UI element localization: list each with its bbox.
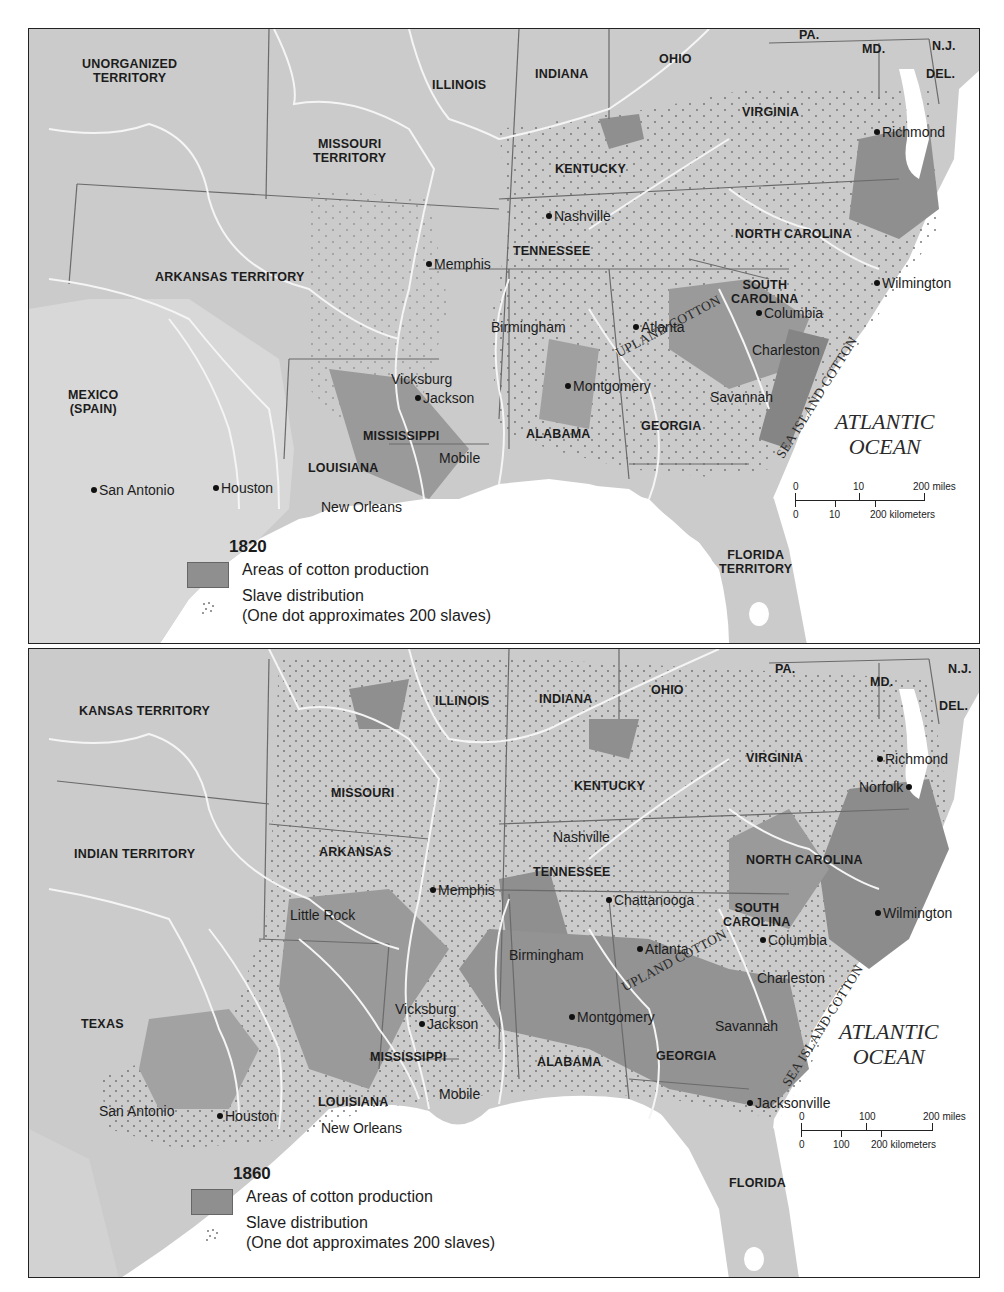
city-birmingham: Birmingham xyxy=(509,947,584,963)
label-south-carolina: SOUTHCAROLINA xyxy=(731,278,799,306)
label-mississippi: MISSISSIPPI xyxy=(363,429,440,443)
city-vicksburg: Vicksburg xyxy=(395,1001,456,1017)
label-ohio: OHIO xyxy=(659,52,692,66)
city-nashville: Nashville xyxy=(553,829,610,845)
city-nashville: Nashville xyxy=(546,208,611,224)
legend-cotton-label: Areas of cotton production xyxy=(246,1188,433,1206)
label-tennessee: TENNESSEE xyxy=(533,865,611,879)
label-del: DEL. xyxy=(926,67,955,81)
label-unorganized-territory: UNORGANIZEDTERRITORY xyxy=(82,57,177,85)
city-houston: Houston xyxy=(213,480,273,496)
label-md: MD. xyxy=(862,42,886,56)
label-alabama: ALABAMA xyxy=(526,427,591,441)
label-indiana: INDIANA xyxy=(539,692,592,706)
legend-slave-note: (One dot approximates 200 slaves) xyxy=(242,607,491,625)
city-birmingham: Birmingham xyxy=(491,319,566,335)
label-missouri-territory: MISSOURITERRITORY xyxy=(313,137,386,165)
scale-bar-1860: 0 100 200 miles 0 100 200 kilometers xyxy=(799,1111,979,1161)
legend-1860: 1860 Areas of cotton production Slave di… xyxy=(191,1164,571,1264)
city-savannah: Savannah xyxy=(710,389,773,405)
label-missouri: MISSOURI xyxy=(331,786,394,800)
city-montgomery: Montgomery xyxy=(569,1009,655,1025)
scale-bar-1820: 0 10 200 miles 0 10 200 kilometers xyxy=(793,481,973,531)
label-ohio: OHIO xyxy=(651,683,684,697)
label-louisiana: LOUISIANA xyxy=(308,461,379,475)
map-1820: UNORGANIZEDTERRITORY ILLINOIS INDIANA OH… xyxy=(28,28,980,644)
label-kansas-territory: KANSAS TERRITORY xyxy=(79,704,210,718)
label-tennessee: TENNESSEE xyxy=(513,244,591,258)
city-montgomery: Montgomery xyxy=(565,378,651,394)
label-nj: N.J. xyxy=(932,39,956,53)
city-new-orleans: New Orleans xyxy=(321,1120,402,1136)
city-new-orleans: New Orleans xyxy=(321,499,402,515)
label-atlantic-ocean: ATLANTICOCEAN xyxy=(835,409,934,459)
city-norfolk: Norfolk xyxy=(859,779,914,795)
label-texas: TEXAS xyxy=(81,1017,124,1031)
label-south-carolina: SOUTHCAROLINA xyxy=(723,901,791,929)
label-alabama: ALABAMA xyxy=(537,1055,602,1069)
city-savannah: Savannah xyxy=(715,1018,778,1034)
label-north-carolina: NORTH CAROLINA xyxy=(735,227,852,241)
city-jackson: Jackson xyxy=(419,1016,478,1032)
city-mobile: Mobile xyxy=(439,1086,480,1102)
city-wilmington: Wilmington xyxy=(874,275,951,291)
label-pa: PA. xyxy=(799,28,820,42)
label-nj: N.J. xyxy=(948,662,972,676)
city-chattanooga: Chattanooga xyxy=(606,892,694,908)
label-virginia: VIRGINIA xyxy=(742,105,799,119)
legend-slave-label: Slave distribution xyxy=(242,587,364,605)
label-pa: PA. xyxy=(775,662,796,676)
label-atlantic-ocean: ATLANTICOCEAN xyxy=(839,1019,938,1069)
city-jacksonville: Jacksonville xyxy=(747,1095,830,1111)
city-wilmington: Wilmington xyxy=(875,905,952,921)
label-north-carolina: NORTH CAROLINA xyxy=(746,853,863,867)
label-kentucky: KENTUCKY xyxy=(555,162,626,176)
city-richmond: Richmond xyxy=(877,751,948,767)
slave-dots-icon xyxy=(201,601,217,615)
label-florida: FLORIDA xyxy=(729,1176,786,1190)
city-memphis: Memphis xyxy=(426,256,491,272)
city-memphis: Memphis xyxy=(430,882,495,898)
map-1860: KANSAS TERRITORY ILLINOIS INDIANA OHIO P… xyxy=(28,648,980,1278)
label-illinois: ILLINOIS xyxy=(432,78,486,92)
label-kentucky: KENTUCKY xyxy=(574,779,645,793)
legend-cotton-label: Areas of cotton production xyxy=(242,561,429,579)
legend-slave-label: Slave distribution xyxy=(246,1214,368,1232)
city-jackson: Jackson xyxy=(415,390,474,406)
label-georgia: GEORGIA xyxy=(641,419,701,433)
label-arkansas-territory: ARKANSAS TERRITORY xyxy=(155,270,304,284)
label-arkansas: ARKANSAS xyxy=(319,845,391,859)
cotton-swatch xyxy=(191,1189,233,1215)
legend-year: 1860 xyxy=(233,1164,271,1184)
slave-dots-icon xyxy=(205,1228,221,1242)
label-del: DEL. xyxy=(939,699,968,713)
city-vicksburg: Vicksburg xyxy=(391,371,452,387)
legend-year: 1820 xyxy=(229,537,267,557)
city-charleston: Charleston xyxy=(757,970,825,986)
city-houston: Houston xyxy=(217,1108,277,1124)
label-indian-territory: INDIAN TERRITORY xyxy=(74,847,195,861)
legend-slave-note: (One dot approximates 200 slaves) xyxy=(246,1234,495,1252)
label-illinois: ILLINOIS xyxy=(435,694,489,708)
cotton-swatch xyxy=(187,562,229,588)
label-mexico-spain: MEXICO(SPAIN) xyxy=(68,388,119,416)
legend-1820: 1820 Areas of cotton production Slave di… xyxy=(187,537,567,637)
city-richmond: Richmond xyxy=(874,124,945,140)
label-virginia: VIRGINIA xyxy=(746,751,803,765)
label-indiana: INDIANA xyxy=(535,67,588,81)
city-san-antonio: San Antonio xyxy=(91,482,175,498)
label-mississippi: MISSISSIPPI xyxy=(370,1050,447,1064)
city-columbia: Columbia xyxy=(756,305,823,321)
label-md: MD. xyxy=(870,675,894,689)
city-columbia: Columbia xyxy=(760,932,827,948)
city-san-antonio: San Antonio xyxy=(99,1103,175,1119)
city-little-rock: Little Rock xyxy=(290,907,355,923)
label-florida-territory: FLORIDATERRITORY xyxy=(719,548,792,576)
city-mobile: Mobile xyxy=(439,450,480,466)
label-louisiana: LOUISIANA xyxy=(318,1095,389,1109)
label-georgia: GEORGIA xyxy=(656,1049,716,1063)
city-charleston: Charleston xyxy=(752,342,820,358)
